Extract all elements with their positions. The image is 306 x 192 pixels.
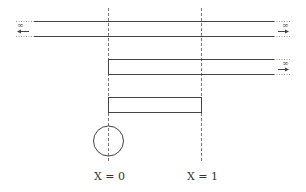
infinite-slab (16, 22, 290, 37)
finite-slab (109, 98, 202, 113)
diagram-svg (0, 0, 306, 192)
x0-label: X = 0 (94, 170, 125, 183)
x1-label: X = 1 (187, 170, 218, 183)
infinity-right-label-2: ∞ (282, 60, 289, 68)
infinity-right-label: ∞ (282, 22, 289, 30)
diagram-canvas: ∞ ∞ ∞ X = 0 X = 1 (0, 0, 306, 192)
infinity-left-label: ∞ (17, 22, 24, 30)
semi-infinite-slab (109, 60, 291, 75)
